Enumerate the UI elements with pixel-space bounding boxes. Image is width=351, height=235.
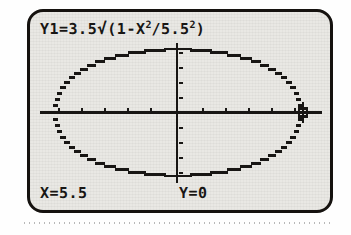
equation-prefix: Y1=3.5	[40, 20, 97, 38]
equation-close-paren: )	[196, 20, 206, 38]
graph-svg	[30, 12, 330, 210]
equation-divider: /5.5	[151, 20, 189, 38]
y-axis	[176, 43, 179, 183]
y-value-readout: Y=0	[179, 185, 208, 201]
page-canvas: Y1=3.5√(1-X2/5.52) X=5.5 Y=0	[0, 0, 351, 235]
radical-icon: √	[97, 19, 107, 38]
equation-open-paren: (1-X	[107, 20, 145, 38]
calculator-screen[interactable]: Y1=3.5√(1-X2/5.52) X=5.5 Y=0	[27, 9, 333, 213]
trace-cursor-icon	[294, 102, 312, 123]
x-value-readout: X=5.5	[40, 185, 88, 201]
equation-display: Y1=3.5√(1-X2/5.52)	[40, 21, 205, 37]
graph-plot-area[interactable]	[30, 12, 330, 210]
dotted-divider	[22, 222, 334, 224]
